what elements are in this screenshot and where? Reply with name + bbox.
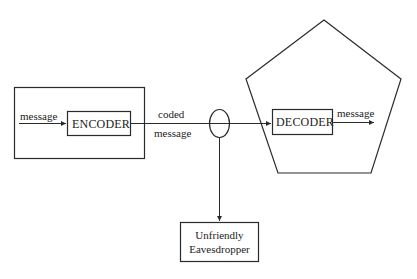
input-message-label: message — [20, 111, 57, 122]
encoder-label: ENCODER — [72, 118, 130, 130]
eavesdropper-line1: Unfriendly — [195, 228, 243, 242]
coded-label: coded — [158, 109, 184, 120]
coded-message-label: message — [154, 128, 191, 139]
output-message-label: message — [337, 108, 374, 119]
eavesdropper-text: Unfriendly Eavesdropper — [180, 222, 259, 262]
receiver-pentagon — [246, 20, 401, 173]
encryption-diagram: message ENCODER coded message DECODER me… — [0, 0, 417, 279]
eavesdropper-line2: Eavesdropper — [189, 242, 249, 256]
decoder-label: DECODER — [276, 116, 334, 128]
